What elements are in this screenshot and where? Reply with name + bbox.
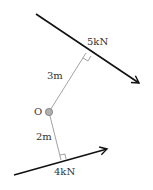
distance-line-upper [49, 53, 86, 112]
force-label-lower: 4kN [54, 166, 75, 177]
pivot-label: O [34, 106, 42, 117]
right-angle-marker-upper [83, 56, 91, 61]
moment-diagram: 5kN 3m O 2m 4kN [0, 0, 153, 190]
distance-label-lower: 2m [36, 131, 52, 142]
force-label-upper: 5kN [87, 36, 108, 47]
pivot-point [45, 108, 52, 115]
distance-label-upper: 3m [47, 70, 63, 81]
